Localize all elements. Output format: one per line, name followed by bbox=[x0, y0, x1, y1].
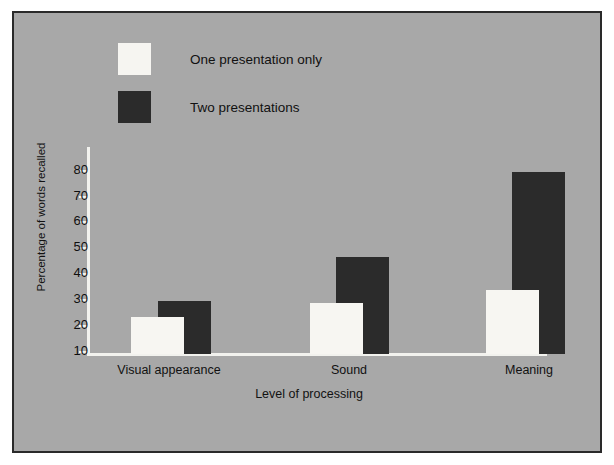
bar-visual-appearance-one-presentation bbox=[131, 317, 184, 354]
y-tick-label: 40 bbox=[48, 265, 88, 280]
x-label-meaning: Meaning bbox=[449, 363, 609, 377]
legend-swatch-light bbox=[118, 43, 151, 75]
y-tick-label: 20 bbox=[48, 317, 88, 332]
legend-item-one-presentation-only: One presentation only bbox=[118, 39, 418, 79]
legend-label-one-presentation-only: One presentation only bbox=[190, 52, 322, 67]
x-label-sound: Sound bbox=[269, 363, 429, 377]
y-tick-label: 70 bbox=[48, 188, 88, 203]
plot-area: One presentation only Two presentations … bbox=[14, 13, 604, 455]
bar-meaning-one-presentation bbox=[486, 290, 539, 354]
y-tick-label: 80 bbox=[48, 162, 88, 177]
chart-figure: One presentation only Two presentations … bbox=[12, 11, 602, 453]
chart-legend: One presentation only Two presentations bbox=[118, 39, 418, 135]
legend-label-two-presentations: Two presentations bbox=[190, 100, 300, 115]
legend-swatch-dark bbox=[118, 91, 151, 123]
y-axis-title: Percentage of words recalled bbox=[35, 127, 47, 307]
x-axis-title: Level of processing bbox=[14, 387, 604, 401]
y-tick-label: 30 bbox=[48, 291, 88, 306]
y-tick-label: 60 bbox=[48, 213, 88, 228]
x-label-visual-appearance: Visual appearance bbox=[84, 363, 254, 377]
y-tick-label: 10 bbox=[48, 343, 88, 358]
y-tick-label: 50 bbox=[48, 239, 88, 254]
bar-sound-one-presentation bbox=[310, 303, 363, 354]
legend-item-two-presentations: Two presentations bbox=[118, 87, 418, 127]
